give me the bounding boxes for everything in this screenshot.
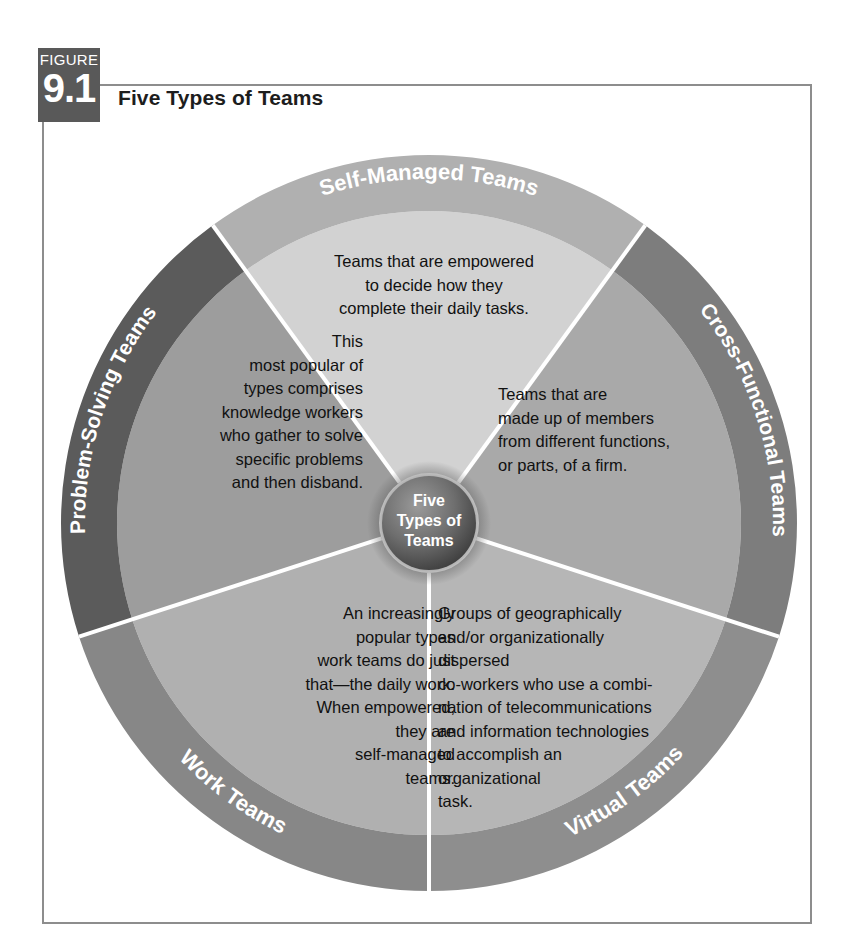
wheel-svg: Self-Managed TeamsCross-Functional Teams…	[0, 0, 856, 944]
segment-body-virtual: Groups of geographically and/or organiza…	[438, 602, 678, 814]
segment-body-problem-solving: This most popular of types comprises kno…	[148, 330, 363, 495]
hub-line-1: Five	[413, 492, 445, 509]
hub-line-3: Teams	[404, 532, 454, 549]
segment-body-work: An increasingly popular types work teams…	[255, 602, 455, 790]
segment-body-cross-functional: Teams that are made up of members from d…	[498, 383, 713, 477]
teams-wheel-diagram: Self-Managed TeamsCross-Functional Teams…	[0, 0, 856, 944]
hub-line-2: Types of	[397, 512, 462, 529]
figure-number-badge: FIGURE 9.1	[38, 48, 100, 122]
figure-badge-number: 9.1	[43, 66, 96, 110]
segment-body-self-managed: Teams that are empowered to decide how t…	[305, 250, 563, 321]
